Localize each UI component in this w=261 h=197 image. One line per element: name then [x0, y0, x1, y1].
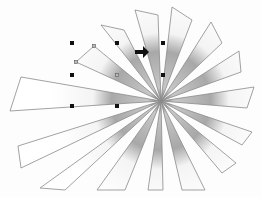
- drawing-canvas[interactable]: [0, 0, 261, 197]
- resize-handle[interactable]: [115, 41, 119, 45]
- vertex-handle[interactable]: [93, 45, 96, 48]
- vertex-handle[interactable]: [116, 74, 119, 77]
- sunburst-rays[interactable]: [10, 7, 254, 190]
- resize-handle[interactable]: [70, 104, 74, 108]
- resize-handle[interactable]: [161, 41, 165, 45]
- ray-right-2[interactable]: [161, 87, 254, 108]
- resize-handle[interactable]: [70, 73, 74, 77]
- resize-handle[interactable]: [115, 104, 119, 108]
- resize-handle[interactable]: [161, 73, 165, 77]
- vertex-handle[interactable]: [75, 61, 78, 64]
- sunburst-shape[interactable]: [0, 0, 261, 197]
- resize-handle[interactable]: [70, 41, 74, 45]
